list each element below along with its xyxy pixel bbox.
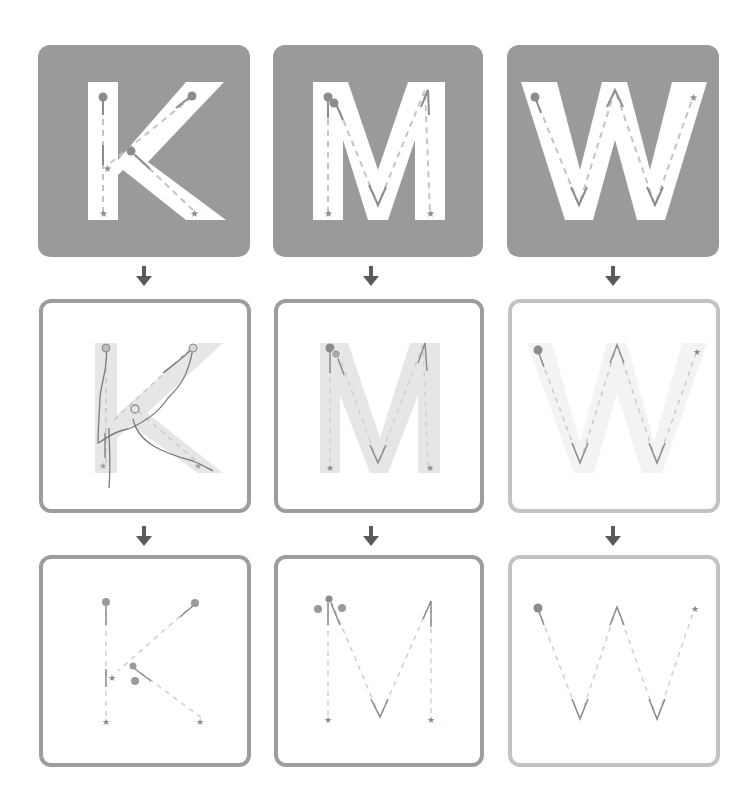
w-traced-graphic: ★ (512, 303, 716, 509)
down-arrow-icon (134, 526, 154, 548)
star-icon: ★ (426, 208, 435, 219)
m-skeleton-panel: ★ ★ (274, 555, 484, 767)
w-skeleton-graphic: ★ (512, 559, 716, 763)
start-marker-1 (314, 605, 322, 613)
star-icon: ★ (326, 463, 334, 473)
star-icon: ★ (196, 717, 204, 727)
start-marker (534, 346, 543, 355)
start-marker-2 (330, 99, 339, 108)
k-skeleton-graphic: ★ ★ ★ (43, 559, 247, 763)
down-arrow-icon (603, 526, 623, 548)
start-marker-2 (188, 92, 197, 101)
star-icon: ★ (324, 715, 332, 725)
k-guide-graphic: ★ ★ ★ (38, 45, 250, 257)
star-icon: ★ (103, 163, 112, 174)
start-marker-3 (131, 677, 139, 685)
star-icon: ★ (324, 208, 333, 219)
k-guide-tile: ★ ★ ★ (38, 45, 250, 257)
star-icon: ★ (99, 461, 107, 471)
letter-m-faded (320, 343, 440, 473)
down-arrow-icon (603, 266, 623, 288)
letter-w-faded (527, 343, 707, 473)
letter-k-shape (88, 82, 226, 220)
star-icon: ★ (194, 461, 202, 471)
w-guide-graphic: ★ (507, 45, 719, 257)
m-traced-graphic: ★ ★ (278, 303, 480, 509)
start-marker-2 (189, 344, 197, 352)
k-traced-panel: ★ ★ (39, 299, 251, 513)
letter-w-shape (521, 82, 707, 220)
w-traced-panel: ★ (508, 299, 720, 513)
star-icon: ★ (102, 717, 110, 727)
star-icon: ★ (691, 604, 699, 614)
start-point (326, 596, 333, 603)
start-point-3 (130, 663, 137, 670)
w-skeleton-panel: ★ (508, 555, 720, 767)
star-icon: ★ (190, 208, 199, 219)
star-icon: ★ (693, 347, 701, 357)
start-marker-1 (102, 598, 110, 606)
start-marker (531, 93, 540, 102)
m-traced-panel: ★ ★ (274, 299, 484, 513)
start-marker-2 (191, 599, 199, 607)
k-skeleton-panel: ★ ★ ★ (39, 555, 251, 767)
star-icon: ★ (689, 92, 698, 103)
down-arrow-icon (361, 266, 381, 288)
letter-k-faded (95, 343, 223, 473)
start-marker-1 (99, 93, 108, 102)
k-traced-graphic: ★ ★ (43, 303, 247, 509)
star-icon: ★ (99, 208, 108, 219)
star-icon: ★ (108, 673, 116, 683)
m-guide-graphic: ★ ★ (273, 45, 483, 257)
down-arrow-icon (361, 526, 381, 548)
down-arrow-icon (134, 266, 154, 288)
m-guide-tile: ★ ★ (273, 45, 483, 257)
start-marker-2 (332, 350, 341, 359)
w-guide-tile: ★ (507, 45, 719, 257)
start-marker-2 (338, 604, 346, 612)
start-marker (534, 604, 543, 613)
start-marker-1 (102, 344, 110, 352)
star-icon: ★ (426, 463, 434, 473)
start-marker-3 (127, 147, 136, 156)
star-icon: ★ (427, 715, 435, 725)
m-skeleton-graphic: ★ ★ (278, 559, 480, 763)
